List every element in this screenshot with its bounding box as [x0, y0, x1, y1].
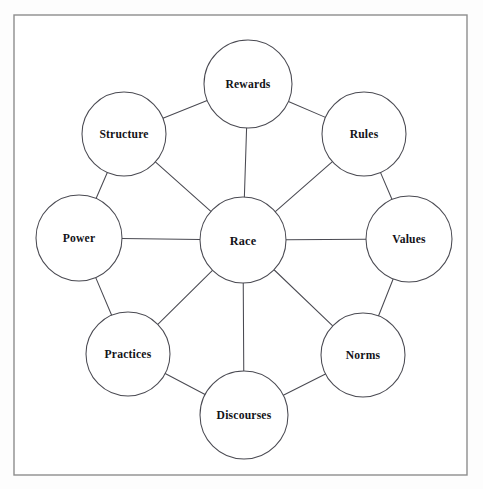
node-race[interactable]: Race: [200, 197, 286, 283]
node-label-race: Race: [230, 234, 257, 248]
node-practices[interactable]: Practices: [86, 312, 170, 396]
node-label-norms: Norms: [346, 349, 381, 362]
node-label-practices: Practices: [105, 348, 152, 361]
node-values[interactable]: Values: [366, 196, 452, 282]
node-rules[interactable]: Rules: [322, 92, 406, 176]
node-power[interactable]: Power: [36, 195, 122, 281]
node-norms[interactable]: Norms: [321, 313, 405, 397]
node-label-rewards: Rewards: [225, 78, 270, 91]
race-concept-map: RewardsRulesValuesNormsDiscoursesPractic…: [0, 0, 483, 489]
node-rewards[interactable]: Rewards: [204, 40, 292, 128]
node-label-values: Values: [392, 233, 426, 246]
diagram-canvas: RewardsRulesValuesNormsDiscoursesPractic…: [0, 0, 483, 489]
node-label-structure: Structure: [99, 128, 148, 141]
node-label-power: Power: [63, 232, 96, 245]
node-discourses[interactable]: Discourses: [200, 371, 288, 459]
node-structure[interactable]: Structure: [82, 92, 166, 176]
node-label-discourses: Discourses: [217, 409, 272, 422]
spoke-edge-race-to-discourses: [243, 283, 244, 371]
node-label-rules: Rules: [350, 128, 379, 141]
